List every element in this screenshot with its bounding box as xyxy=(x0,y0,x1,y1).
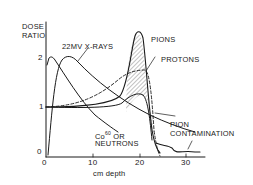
pion-contamination-curve xyxy=(156,143,200,152)
x-tick-20: 20 xyxy=(135,159,144,167)
co-superscript: 60 xyxy=(105,130,111,136)
pions-label: PIONS xyxy=(151,36,175,44)
pion-contamination-label-1: PION xyxy=(170,121,189,129)
co60-neutrons-curve xyxy=(47,57,118,132)
pion-contamination-label-2: CONTAMINATION xyxy=(170,130,234,138)
y-tick-0: 0 xyxy=(37,148,42,156)
x-tick-0: 0 xyxy=(42,159,47,167)
x-tick-30: 30 xyxy=(181,159,190,167)
neutrons-label: NEUTRONS xyxy=(95,140,139,148)
y-tick-1: 1 xyxy=(39,103,44,111)
x-axis-label: cm depth xyxy=(93,170,125,178)
xrays-label: 22MV X-RAYS xyxy=(62,43,113,51)
y-axis-label-line1: DOSE xyxy=(22,23,44,31)
y-axis-label-line2: RATIO xyxy=(22,32,45,40)
protons-label: PROTONS xyxy=(161,56,199,64)
y-tick-2: 2 xyxy=(38,54,43,62)
x-tick-10: 10 xyxy=(88,159,97,167)
